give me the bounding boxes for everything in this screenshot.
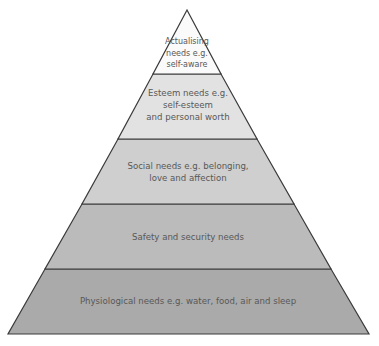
tier-social-label: Social needs e.g. belonging, love and af… [78,160,298,184]
tier-esteem-label: Esteem needs e.g. self-esteem and person… [146,87,229,123]
tier-actualising-label: Actualising needs e.g. self-aware [165,36,209,71]
maslow-hierarchy-diagram: Actualising needs e.g. self-aware Esteem… [0,0,379,346]
tier-physiological-label: Physiological needs e.g. water, food, ai… [28,295,348,307]
tier-safety-label: Safety and security needs [58,231,318,243]
